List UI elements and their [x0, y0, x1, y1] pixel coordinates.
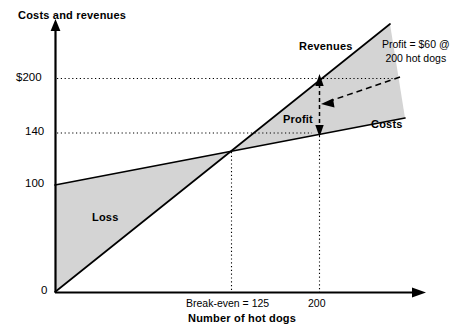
- region-label-loss: Loss: [92, 211, 118, 224]
- profit-annotation-line2: 200 hot dogs: [382, 52, 450, 66]
- y-axis-title: Costs and revenues: [18, 9, 126, 22]
- series-label-costs: Costs: [371, 118, 403, 131]
- y-tick-200: $200: [16, 71, 42, 84]
- y-tick-0: 0: [41, 284, 47, 297]
- x-axis-arrowhead: [412, 287, 426, 297]
- revenues-line: [55, 24, 390, 292]
- break-even-chart: Costs and revenues Number of hot dogs $2…: [0, 0, 466, 333]
- costs-line: [55, 118, 405, 185]
- profit-annotation-line1: Profit = $60 @: [382, 38, 450, 52]
- y-tick-100: 100: [25, 177, 44, 190]
- series-label-revenues: Revenues: [299, 40, 353, 53]
- x-tick-200: 200: [308, 297, 326, 309]
- x-axis-title: Number of hot dogs: [188, 312, 296, 325]
- region-label-profit: Profit: [283, 113, 313, 126]
- profit-annotation: Profit = $60 @ 200 hot dogs: [382, 38, 450, 65]
- x-tick-breakeven: Break-even = 125: [186, 297, 269, 309]
- y-tick-140: 140: [25, 125, 44, 138]
